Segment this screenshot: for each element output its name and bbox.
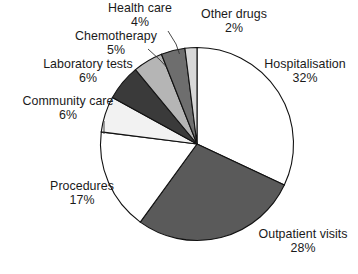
pie-label-procedures-name: Procedures: [50, 179, 114, 193]
pie-label-chemotherapy-name: Chemotherapy: [75, 29, 157, 43]
pie-label-health-care-name: Health care: [108, 1, 172, 15]
pie-label-hospitalisation-name: Hospitalisation: [264, 57, 345, 71]
pie-label-chemotherapy: Chemotherapy 5%: [62, 30, 170, 57]
pie-label-hospitalisation: Hospitalisation 32%: [252, 58, 358, 85]
pie-label-outpatient-visits-name: Outpatient visits: [259, 227, 348, 241]
pie-label-outpatient-visits: Outpatient visits 28%: [248, 228, 358, 255]
pie-label-laboratory-tests-name: Laboratory tests: [43, 57, 133, 71]
pie-label-procedures: Procedures 17%: [26, 180, 138, 207]
pie-label-hospitalisation-pct: 32%: [252, 72, 358, 86]
pie-chart: Health care 4% Other drugs 2% Chemothera…: [0, 0, 358, 274]
pie-label-health-care-pct: 4%: [92, 16, 188, 30]
pie-label-other-drugs: Other drugs 2%: [188, 8, 280, 35]
pie-label-procedures-pct: 17%: [26, 194, 138, 208]
pie-label-community-care: Community care 6%: [6, 95, 130, 122]
pie-label-community-care-pct: 6%: [6, 109, 130, 123]
pie-label-health-care: Health care 4%: [92, 2, 188, 29]
pie-label-community-care-name: Community care: [23, 94, 114, 108]
pie-label-outpatient-visits-pct: 28%: [248, 242, 358, 256]
pie-label-laboratory-tests-pct: 6%: [26, 72, 150, 86]
pie-label-other-drugs-pct: 2%: [188, 22, 280, 36]
pie-label-chemotherapy-pct: 5%: [62, 44, 170, 58]
pie-label-laboratory-tests: Laboratory tests 6%: [26, 58, 150, 85]
pie-label-other-drugs-name: Other drugs: [201, 7, 267, 21]
